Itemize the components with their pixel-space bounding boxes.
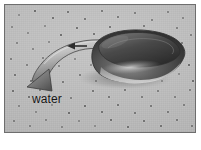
- figure-root: water: [0, 0, 201, 150]
- water-label: water: [32, 93, 62, 106]
- picture-plate: water: [4, 4, 196, 133]
- label-layer: water: [5, 5, 195, 132]
